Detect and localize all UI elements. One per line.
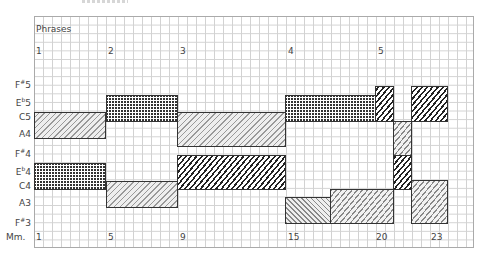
phrase-number: 2 (108, 46, 114, 56)
range-box-wavylight (411, 180, 448, 224)
range-box-wavydark (393, 155, 412, 190)
range-box-backdiag (285, 197, 331, 224)
range-box-diag (34, 112, 106, 139)
measure-number: 15 (288, 232, 299, 242)
phrase-number: 5 (378, 46, 384, 56)
pitch-label: C4 (19, 181, 31, 191)
phrases-label: Phrases (36, 24, 71, 34)
measure-number: 1 (36, 232, 42, 242)
range-box-cross (34, 163, 106, 190)
measure-number: 5 (108, 232, 114, 242)
measure-number: 20 (376, 232, 387, 242)
range-box-cross (285, 95, 376, 122)
cropped-caption (82, 0, 128, 3)
range-box-wavylight (393, 121, 412, 156)
pitch-label: F#3 (15, 215, 31, 228)
pitch-label: C5 (19, 112, 31, 122)
range-box-wavydark (177, 155, 286, 190)
pitch-label: A3 (19, 198, 31, 208)
measure-number: 23 (431, 232, 442, 242)
pitch-label: F#4 (15, 146, 31, 159)
range-box-wavylight (330, 189, 394, 224)
phrase-number: 3 (180, 46, 186, 56)
range-box-cross (106, 95, 178, 122)
range-box-diag (106, 181, 178, 208)
pitch-label: A4 (19, 129, 31, 139)
phrase-number: 4 (288, 46, 294, 56)
measures-label: Mm. (6, 232, 25, 242)
pitch-label: Eb4 (16, 164, 31, 177)
range-box-diag (177, 112, 286, 147)
range-box-wavydark (411, 86, 448, 122)
measure-number: 9 (180, 232, 186, 242)
phrase-number: 1 (36, 46, 42, 56)
pitch-label: Eb5 (16, 95, 31, 108)
range-box-wavydark (375, 86, 394, 122)
pitch-label: F#5 (15, 77, 31, 90)
